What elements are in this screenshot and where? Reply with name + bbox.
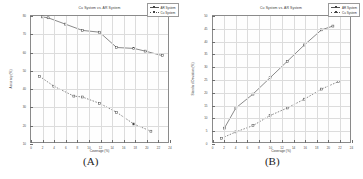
x-axis-tick	[135, 140, 136, 143]
y-axis-tick	[212, 144, 215, 145]
grid-line-horizontal	[213, 80, 350, 81]
plot-area-b: 0246810121416182022240510152025303540455…	[212, 15, 351, 143]
grid-line-horizontal	[213, 42, 350, 43]
legend-item-label: Cu System	[160, 11, 175, 15]
grid-line-horizontal	[31, 71, 168, 72]
legend-line-sample-icon	[331, 11, 340, 14]
legend-b[interactable]: AR SystemCu System	[328, 3, 360, 17]
y-axis-tick	[212, 54, 215, 55]
y-axis-tick-label: 10	[204, 116, 207, 120]
grid-line-horizontal	[213, 67, 350, 68]
chart-panel-a: Cu System vs. AR System 0246810121416182…	[0, 0, 182, 179]
data-point-marker	[81, 29, 83, 31]
y-axis-tick	[30, 71, 33, 72]
grid-line-horizontal	[31, 126, 168, 127]
legend-item[interactable]: AR System	[331, 6, 357, 10]
y-axis-tick-label: 20	[204, 91, 207, 95]
grid-line-vertical	[340, 16, 341, 142]
x-axis-tick	[147, 140, 148, 143]
y-axis-tick	[212, 131, 215, 132]
y-axis-tick	[212, 106, 215, 107]
x-axis-label-b: Coverage (%)	[212, 149, 351, 153]
plot-area-a: 0246810121416182022241020304050607080	[30, 15, 169, 143]
y-axis-tick-label: 60	[23, 51, 26, 55]
y-axis-tick	[212, 80, 215, 81]
data-point-marker	[331, 25, 333, 27]
y-axis-tick-label: 5	[206, 129, 208, 133]
figure-container: Cu System vs. AR System 0246810121416182…	[0, 0, 363, 179]
y-axis-tick	[212, 118, 215, 119]
grid-line-horizontal	[213, 118, 350, 119]
x-axis-tick	[77, 140, 78, 143]
y-axis-tick-label: 15	[204, 104, 207, 108]
x-axis-tick	[282, 140, 283, 143]
grid-line-horizontal	[213, 29, 350, 30]
y-axis-tick	[212, 16, 215, 17]
grid-line-vertical	[259, 16, 260, 142]
y-axis-tick	[30, 126, 33, 127]
data-point-marker	[47, 17, 49, 19]
y-axis-tick-label: 80	[23, 14, 26, 18]
y-axis-label-b: Standard Deviation (%)	[191, 63, 195, 96]
panel-caption-a: (A)	[0, 155, 182, 167]
y-axis-tick-label: 40	[23, 87, 26, 91]
x-axis-tick	[54, 140, 55, 143]
y-axis-tick-label: 40	[204, 40, 207, 44]
grid-line-vertical	[305, 16, 306, 142]
x-axis-tick	[31, 140, 32, 143]
data-point-marker	[286, 107, 288, 109]
x-axis-tick	[224, 140, 225, 143]
grid-line-horizontal	[213, 106, 350, 107]
legend-a[interactable]: AR SystemCu System	[147, 3, 179, 17]
grid-line-vertical	[236, 16, 237, 142]
y-axis-tick-label: 45	[204, 27, 207, 31]
data-point-marker	[150, 130, 152, 132]
y-axis-tick	[30, 53, 33, 54]
legend-item[interactable]: Cu System	[150, 11, 176, 15]
y-axis-tick	[30, 34, 33, 35]
y-axis-tick-label: 10	[23, 142, 26, 146]
y-axis-tick	[30, 89, 33, 90]
y-axis-tick	[30, 16, 33, 17]
x-axis-tick	[305, 140, 306, 143]
y-axis-tick	[212, 42, 215, 43]
legend-item[interactable]: AR System	[150, 6, 176, 10]
chart-panel-b: Cu System vs. AR System 0246810121416182…	[182, 0, 363, 179]
grid-line-horizontal	[31, 107, 168, 108]
legend-item-label: Cu System	[342, 11, 357, 15]
y-axis-tick-label: 50	[204, 14, 207, 18]
grid-line-vertical	[328, 16, 329, 142]
x-axis-tick	[317, 140, 318, 143]
data-point-marker	[320, 88, 322, 90]
legend-line-sample-icon	[331, 6, 340, 9]
legend-line-sample-icon	[150, 6, 159, 9]
data-point-marker	[73, 95, 75, 97]
data-point-marker	[81, 96, 83, 98]
x-axis-tick	[124, 140, 125, 143]
y-axis-tick-label: 0	[206, 142, 208, 146]
x-axis-tick	[112, 140, 113, 143]
y-axis-tick-label: 50	[23, 69, 26, 73]
x-axis-tick	[66, 140, 67, 143]
x-axis-tick	[270, 140, 271, 143]
grid-line-vertical	[282, 16, 283, 142]
grid-line-vertical	[294, 16, 295, 142]
x-axis-tick	[158, 140, 159, 143]
grid-line-horizontal	[213, 131, 350, 132]
y-axis-tick-label: 70	[23, 32, 26, 36]
x-axis-tick	[328, 140, 329, 143]
x-axis-tick	[247, 140, 248, 143]
x-axis-label-a: Coverage (%)	[30, 149, 169, 153]
y-axis-tick	[212, 29, 215, 30]
data-point-marker	[116, 47, 118, 49]
grid-line-horizontal	[213, 54, 350, 55]
data-point-marker	[116, 111, 118, 113]
x-axis-tick	[43, 140, 44, 143]
legend-item[interactable]: Cu System	[331, 11, 357, 15]
x-axis-tick	[340, 140, 341, 143]
data-point-marker	[39, 75, 41, 77]
grid-line-horizontal	[213, 93, 350, 94]
grid-line-horizontal	[31, 34, 168, 35]
y-axis-tick-label: 30	[204, 65, 207, 69]
y-axis-label-a: Accuracy (%)	[9, 70, 13, 89]
